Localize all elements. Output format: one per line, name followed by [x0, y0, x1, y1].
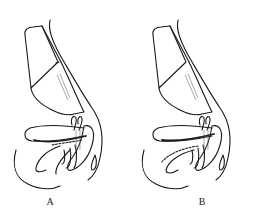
panel-b: B: [128, 0, 255, 224]
panel-label-b: B: [192, 196, 212, 207]
panel-label-a: A: [40, 196, 60, 207]
illustration-a: [0, 0, 128, 224]
illustration-b: [128, 0, 255, 224]
panel-a: A: [0, 0, 128, 224]
